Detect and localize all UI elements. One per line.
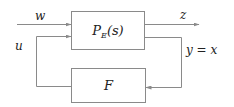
u-signal-path (37, 37, 72, 87)
plant-label-argument: (s) (107, 23, 124, 38)
plant-label-main: P (92, 23, 101, 38)
w-signal-label: w (35, 10, 45, 22)
y-signal-label: y = x (186, 44, 217, 56)
controller-label: F (71, 79, 146, 92)
u-signal-label: u (15, 40, 23, 52)
y-signal-path (145, 38, 182, 88)
controller-label-main: F (104, 78, 113, 93)
plant-label: PE(s) (71, 24, 145, 40)
z-signal-label: z (180, 9, 186, 21)
